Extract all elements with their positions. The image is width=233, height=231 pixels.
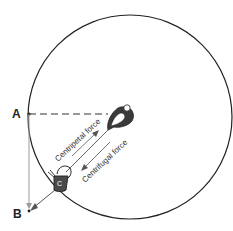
tangent-arrowhead	[26, 203, 32, 209]
centripetal-force-diagram: A B C Centripetal force Centrifugal forc…	[0, 0, 233, 231]
person-figure-icon	[108, 105, 134, 130]
point-b-label: B	[13, 207, 22, 221]
point-a-label: A	[12, 107, 21, 121]
centrifugal-force-label: Centrifugal force	[80, 137, 129, 184]
point-b-marker	[28, 210, 31, 213]
point-c-label: C	[57, 180, 62, 187]
